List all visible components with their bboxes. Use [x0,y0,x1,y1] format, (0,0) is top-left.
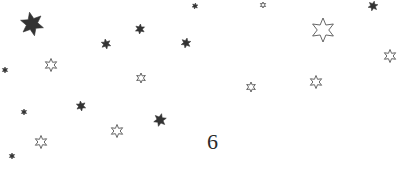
filled-star-icon [135,24,144,34]
outline-star-icon [137,73,146,83]
outline-star-icon [35,136,46,149]
filled-star-icon [21,109,26,115]
star-decorations [0,0,397,173]
filled-star-icon [9,153,14,159]
outline-star-icon [111,125,122,138]
filled-star-icon [368,1,378,11]
filled-star-icon [154,114,167,127]
outline-star-icon [384,50,395,63]
filled-star-icon [76,101,85,111]
filled-star-icon [181,38,191,48]
filled-star-icon [2,67,7,73]
outline-star-icon [310,76,321,89]
filled-star-icon [21,12,44,35]
page-number: 6 [207,131,218,153]
outline-star-icon [313,18,334,42]
filled-star-icon [192,3,198,9]
outline-star-icon [45,59,56,72]
filled-star-icon [101,39,110,49]
outline-star-icon [247,82,256,92]
outline-star-icon [260,2,265,8]
